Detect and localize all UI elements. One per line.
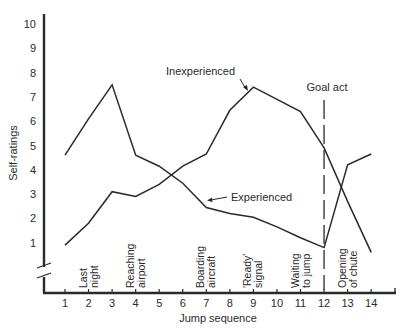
- x-tick-label: 6: [180, 297, 186, 309]
- x-tick-label: 12: [318, 297, 330, 309]
- x-tick-label: 14: [365, 297, 377, 309]
- x-tick-label: 5: [156, 297, 162, 309]
- x-tick-label: 1: [62, 297, 68, 309]
- x-tick-label: 10: [271, 297, 283, 309]
- y-tick-label: 5: [30, 140, 36, 152]
- goal-act-label: Goal act: [307, 81, 348, 93]
- x-tick-label: 4: [133, 297, 139, 309]
- y-tick-label: 10: [24, 18, 36, 30]
- event-labels: LastnightReachingairportBoardingaircraft…: [77, 243, 359, 288]
- series-line-experienced: [65, 85, 371, 248]
- x-tick-label: 2: [85, 297, 91, 309]
- y-tick-label: 4: [30, 164, 36, 176]
- event-label: of chute: [347, 250, 359, 288]
- series-annotations: InexperiencedExperienced: [166, 65, 292, 203]
- y-tick-label: 8: [30, 67, 36, 79]
- experienced-label: Experienced: [231, 191, 292, 203]
- series-line-inexperienced: [65, 87, 371, 252]
- event-label: night: [88, 265, 100, 288]
- y-axis-label: Self-ratings: [7, 125, 19, 181]
- y-tick-label: 1: [30, 237, 36, 249]
- arrowhead-icon: [207, 198, 213, 203]
- x-tick-label: 11: [295, 297, 306, 309]
- x-axis-label: Jump sequence: [179, 312, 257, 324]
- event-label: aircraft: [205, 256, 217, 288]
- data-lines: [65, 85, 371, 253]
- y-tick-label: 9: [30, 42, 36, 54]
- x-tick-label: 9: [250, 297, 256, 309]
- y-tick-label: 2: [30, 212, 36, 224]
- chart-container: 12345678910 1234567891011121314 Lastnigh…: [0, 0, 408, 336]
- event-label: signal: [252, 261, 264, 288]
- x-tick-label: 8: [227, 297, 233, 309]
- y-tick-label: 6: [30, 115, 36, 127]
- inexperienced-label: Inexperienced: [166, 65, 235, 77]
- event-label: airport: [135, 258, 147, 288]
- y-tick-label: 3: [30, 188, 36, 200]
- y-tick-label: 7: [30, 91, 36, 103]
- line-chart: 12345678910 1234567891011121314 Lastnigh…: [0, 0, 408, 336]
- x-tick-label: 13: [341, 297, 353, 309]
- event-label: to jump: [300, 253, 312, 288]
- experienced-arrow: [211, 197, 227, 200]
- x-tick-label: 7: [203, 297, 209, 309]
- y-axis-ticks: 12345678910: [24, 18, 36, 249]
- x-tick-label: 3: [109, 297, 115, 309]
